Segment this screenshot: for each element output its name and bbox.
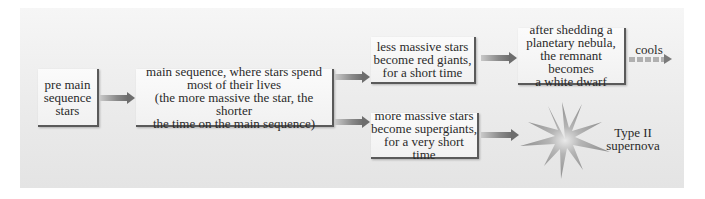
main-sequence-text: main sequence, where stars spend most of… [136, 65, 332, 130]
arrow-pre-to-main [100, 95, 128, 101]
pre-main-sequence-text: pre main sequence stars [44, 78, 92, 117]
less-massive-box: less massive stars become red giants, fo… [371, 37, 476, 84]
less-massive-text: less massive stars become red giants, fo… [374, 40, 472, 79]
arrow-less-massive-to-white-dwarf [481, 55, 510, 61]
white-dwarf-text: after shedding a planetary nebula, the r… [518, 23, 624, 88]
arrow-cools [629, 57, 665, 62]
white-dwarf-box: after shedding a planetary nebula, the r… [518, 28, 626, 85]
pre-main-sequence-box: pre main sequence stars [38, 69, 99, 127]
supernova-label: Type II supernova [602, 126, 664, 152]
more-massive-box: more massive stars become supergiants, f… [371, 113, 479, 159]
more-massive-text: more massive stars become supergiants, f… [371, 109, 477, 161]
arrow-main-to-less-massive [335, 74, 363, 80]
arrow-main-to-more-massive [335, 119, 363, 125]
main-sequence-box: main sequence, where stars spend most of… [136, 69, 334, 127]
cools-label: cools [632, 43, 666, 56]
arrow-more-massive-to-supernova [481, 132, 512, 138]
